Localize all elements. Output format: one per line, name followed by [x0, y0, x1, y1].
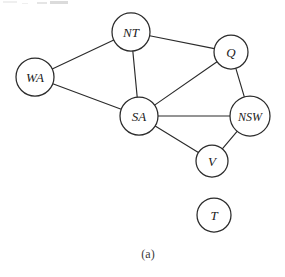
node-label-sa: SA	[132, 109, 147, 124]
graph-edge-sa-q	[155, 62, 217, 105]
node-label-nt: NT	[122, 25, 140, 40]
graph-edge-nt-sa	[133, 51, 137, 97]
graph-edge-nt-q	[150, 36, 215, 49]
node-label-nsw: NSW	[237, 110, 263, 124]
graph-node-q[interactable]: Q	[214, 35, 248, 69]
graph-node-wa[interactable]: WA	[16, 58, 54, 96]
node-layer: WANTQSANSWVT	[16, 13, 270, 232]
graph-node-nsw[interactable]: NSW	[230, 96, 270, 136]
graph-edge-v-nsw	[222, 131, 237, 149]
node-label-q: Q	[226, 45, 236, 60]
graph-node-sa[interactable]: SA	[120, 97, 158, 135]
node-label-wa: WA	[26, 70, 44, 85]
graph-edge-sa-v	[155, 126, 198, 153]
graph-node-nt[interactable]: NT	[112, 13, 150, 51]
graph-edge-wa-sa	[53, 84, 121, 110]
graph-edge-wa-nt	[52, 40, 114, 69]
node-label-t: T	[210, 208, 218, 223]
constraint-graph: WANTQSANSWVT (a)	[0, 0, 285, 277]
figure-caption: (a)	[141, 247, 154, 261]
figure-panel-a: WANTQSANSWVT (a)	[0, 0, 285, 277]
graph-node-t[interactable]: T	[197, 198, 231, 232]
graph-node-v[interactable]: V	[196, 145, 228, 177]
graph-edge-q-nsw	[236, 68, 244, 97]
